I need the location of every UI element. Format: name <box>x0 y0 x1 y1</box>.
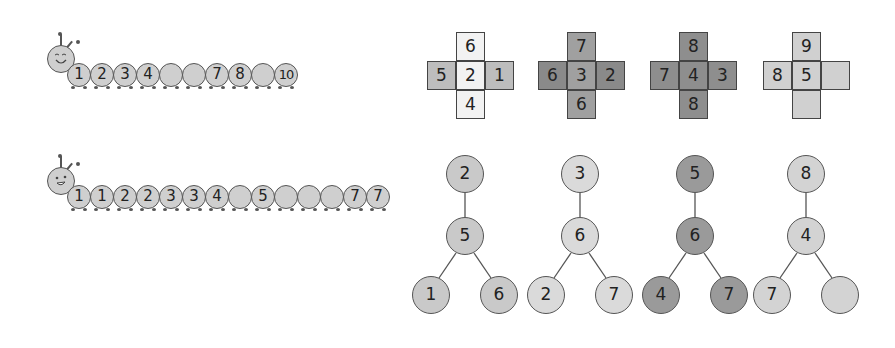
tree-node-middle: 6 <box>676 217 714 255</box>
tree-node-left: 1 <box>412 276 450 314</box>
tree-node-middle: 4 <box>787 217 825 255</box>
tree-node-left: 2 <box>527 276 565 314</box>
tree-node-right: 6 <box>480 276 518 314</box>
tree-node-top: 3 <box>561 155 599 193</box>
tree-node-left: 7 <box>753 276 791 314</box>
tree-node-right: 7 <box>710 276 748 314</box>
tree-node-top: 8 <box>787 155 825 193</box>
tree-node-middle: 5 <box>446 217 484 255</box>
tree-node-right <box>821 276 859 314</box>
tree-node-top: 2 <box>446 155 484 193</box>
tree-node-top: 5 <box>676 155 714 193</box>
tree-node-right: 7 <box>595 276 633 314</box>
tree-node-middle: 6 <box>561 217 599 255</box>
tree-node-left: 4 <box>642 276 680 314</box>
